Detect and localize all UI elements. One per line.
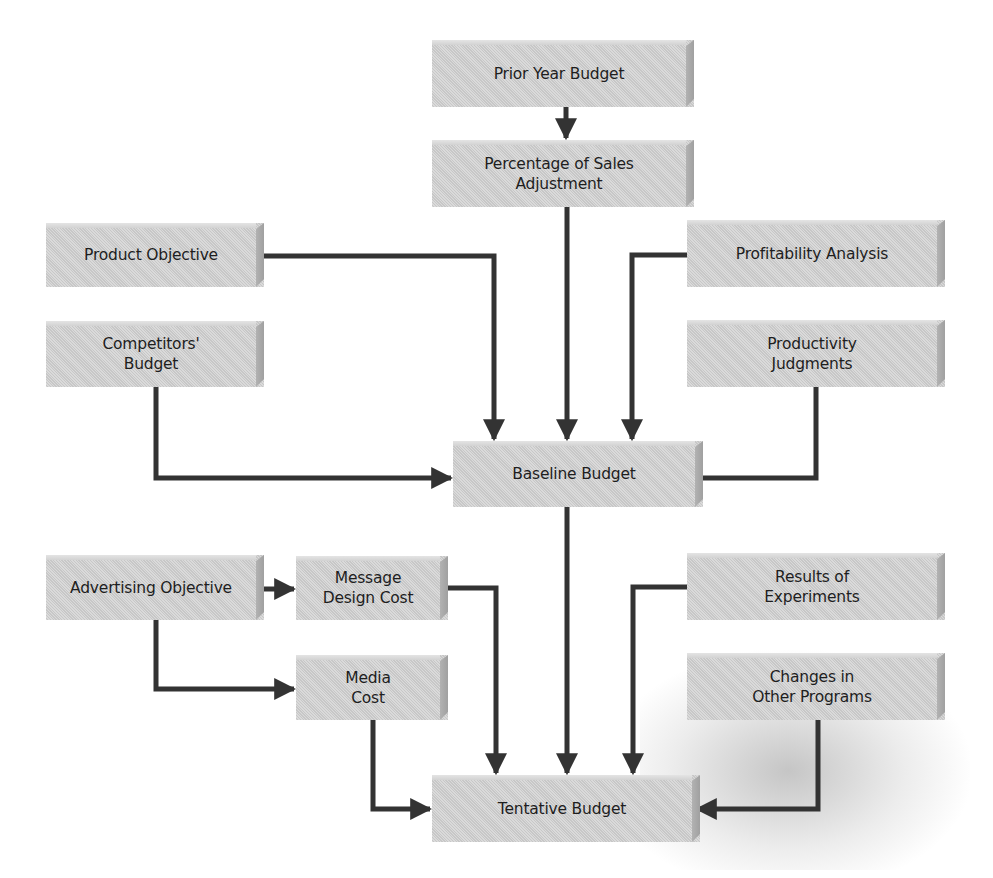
- edge-competitors-to-baseline: [156, 387, 451, 478]
- edge-product-objective-to-baseline: [264, 256, 494, 439]
- node-label: Product Objective: [84, 245, 218, 265]
- node-baseline-budget: Baseline Budget: [453, 441, 703, 507]
- node-label: Productivity Judgments: [767, 334, 857, 374]
- edge-changes-to-tentative: [697, 720, 818, 809]
- node-label: Media Cost: [345, 668, 391, 708]
- node-changes-in-other-programs: Changes in Other Programs: [687, 653, 945, 720]
- node-prior-year-budget: Prior Year Budget: [432, 40, 694, 107]
- node-label: Changes in Other Programs: [752, 667, 872, 707]
- node-label: Percentage of Sales Adjustment: [484, 154, 633, 194]
- node-advertising-objective: Advertising Objective: [46, 555, 264, 620]
- node-label: Tentative Budget: [498, 799, 626, 819]
- node-profitability-analysis: Profitability Analysis: [687, 220, 945, 287]
- node-message-design-cost: Message Design Cost: [296, 556, 448, 620]
- node-label: Advertising Objective: [70, 578, 232, 598]
- edge-profitability-to-baseline: [632, 255, 687, 439]
- edge-media-to-tentative: [373, 720, 430, 809]
- node-competitors-budget: Competitors' Budget: [46, 321, 264, 387]
- connector-layer: [0, 0, 993, 878]
- node-productivity-judgments: Productivity Judgments: [687, 320, 945, 387]
- node-label: Competitors' Budget: [102, 334, 199, 374]
- node-label: Prior Year Budget: [494, 64, 625, 84]
- node-tentative-budget: Tentative Budget: [432, 775, 700, 842]
- node-label: Results of Experiments: [764, 567, 859, 607]
- node-percentage-of-sales-adjustment: Percentage of Sales Adjustment: [432, 140, 694, 207]
- edge-message-to-tentative: [448, 588, 496, 773]
- node-product-objective: Product Objective: [46, 223, 264, 287]
- node-label: Profitability Analysis: [736, 244, 888, 264]
- node-media-cost: Media Cost: [296, 655, 448, 720]
- node-label: Baseline Budget: [512, 464, 635, 484]
- edge-advertising-to-media: [156, 620, 294, 689]
- edge-results-to-tentative: [633, 587, 687, 773]
- node-label: Message Design Cost: [323, 568, 414, 608]
- node-results-of-experiments: Results of Experiments: [687, 553, 945, 620]
